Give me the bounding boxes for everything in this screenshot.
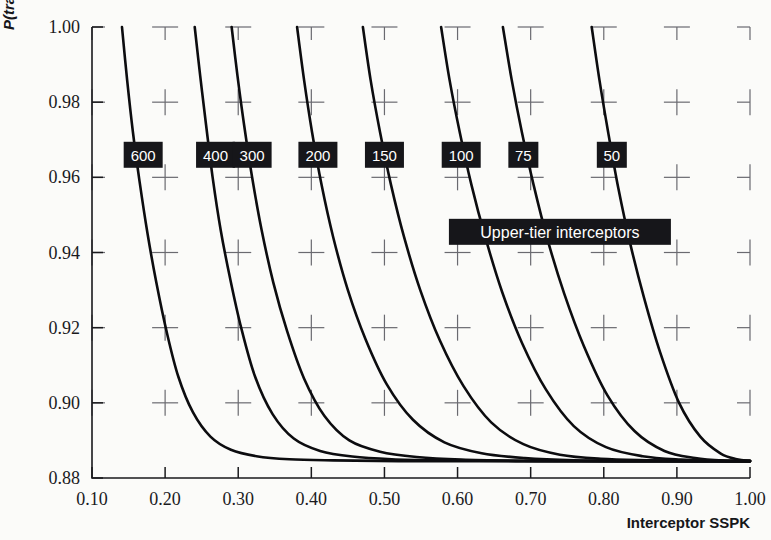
x-tick-label: 0.20 xyxy=(149,489,181,509)
curve-label-text: 150 xyxy=(372,147,397,164)
grid-cross xyxy=(591,315,617,341)
x-tick-labels: 0.100.200.300.400.500.600.700.800.901.00 xyxy=(76,489,766,509)
y-tick-label: 0.88 xyxy=(49,468,81,488)
annotation-box: Upper-tier interceptors xyxy=(449,219,671,245)
grid-cross xyxy=(664,27,690,40)
grid-cross xyxy=(92,27,105,40)
curve-label-boxes: 6004003002001501007550 xyxy=(124,142,627,168)
y-axis-title-text: P(track) xyxy=(0,0,17,30)
curve-label-text: 75 xyxy=(515,147,532,164)
grid-cross xyxy=(371,164,397,190)
chart-page: P(track) Interceptor SSPK 0.100.200.300.… xyxy=(0,0,771,540)
grid-cross xyxy=(225,390,251,416)
curve-label-text: 100 xyxy=(449,147,474,164)
grid-cross xyxy=(737,390,750,416)
grid-cross xyxy=(737,89,750,115)
grid-cross xyxy=(371,315,397,341)
grid-cross xyxy=(664,164,690,190)
grid-cross xyxy=(445,315,471,341)
x-tick-label: 0.70 xyxy=(515,489,547,509)
grid-cross xyxy=(737,240,750,266)
x-tick-label: 0.50 xyxy=(369,489,401,509)
grid-cross xyxy=(152,240,178,266)
grid-cross xyxy=(298,240,324,266)
curve-label-text: 300 xyxy=(240,147,265,164)
grid-cross xyxy=(664,89,690,115)
grid-cross xyxy=(518,390,544,416)
curve-label: 200 xyxy=(298,142,337,168)
x-tick-label: 0.90 xyxy=(661,489,693,509)
curve-label-text: 200 xyxy=(305,147,330,164)
y-tick-label: 0.94 xyxy=(49,243,81,263)
grid-cross xyxy=(152,390,178,416)
grid-cross xyxy=(152,164,178,190)
grid-cross xyxy=(591,27,617,40)
grid-cross xyxy=(298,27,324,40)
y-tick-label: 0.90 xyxy=(49,393,81,413)
grid-cross xyxy=(664,315,690,341)
x-axis-title-text: Interceptor SSPK xyxy=(627,514,751,531)
y-tick-labels: 1.000.980.960.940.920.900.88 xyxy=(49,17,81,488)
grid-cross xyxy=(518,89,544,115)
grid-cross xyxy=(445,89,471,115)
grid-cross xyxy=(445,390,471,416)
curve-label: 400 xyxy=(196,142,235,168)
x-tick-label: 1.00 xyxy=(734,489,766,509)
grid-cross xyxy=(737,164,750,190)
curve-label: 300 xyxy=(233,142,272,168)
x-tick-label: 0.30 xyxy=(222,489,254,509)
y-tick-label: 0.98 xyxy=(49,92,81,112)
grid-cross xyxy=(225,240,251,266)
grid-cross xyxy=(152,89,178,115)
curve-label: 50 xyxy=(597,142,627,168)
curve-label: 100 xyxy=(442,142,481,168)
y-tick-label: 0.92 xyxy=(49,318,81,338)
curve-label-text: 400 xyxy=(203,147,228,164)
grid-cross xyxy=(371,27,397,40)
grid-cross xyxy=(518,27,544,40)
y-axis-title: P(track) xyxy=(0,0,17,30)
y-tick-label: 1.00 xyxy=(49,17,81,37)
y-tick-label: 0.96 xyxy=(49,167,81,187)
curve-label-text: 50 xyxy=(603,147,620,164)
x-tick-label: 0.40 xyxy=(296,489,328,509)
grid-cross xyxy=(737,27,750,40)
grid-cross xyxy=(737,315,750,341)
grid-cross xyxy=(371,240,397,266)
grid-cross xyxy=(445,27,471,40)
grid-cross xyxy=(152,27,178,40)
curve-label: 75 xyxy=(508,142,538,168)
annotation-text: Upper-tier interceptors xyxy=(480,224,639,241)
grid-cross xyxy=(664,390,690,416)
chart-canvas: P(track) Interceptor SSPK 0.100.200.300.… xyxy=(0,0,771,540)
grid-cross xyxy=(225,89,251,115)
x-tick-label: 0.10 xyxy=(76,489,108,509)
x-tick-label: 0.80 xyxy=(588,489,620,509)
grid-cross xyxy=(298,315,324,341)
grid-cross xyxy=(298,89,324,115)
curve-label-text: 600 xyxy=(131,147,156,164)
grid-cross xyxy=(225,27,251,40)
grid-cross xyxy=(518,315,544,341)
grid-cross xyxy=(591,164,617,190)
curve-label: 150 xyxy=(365,142,404,168)
grid-cross xyxy=(225,164,251,190)
x-tick-label: 0.60 xyxy=(442,489,474,509)
curve-label: 600 xyxy=(124,142,163,168)
